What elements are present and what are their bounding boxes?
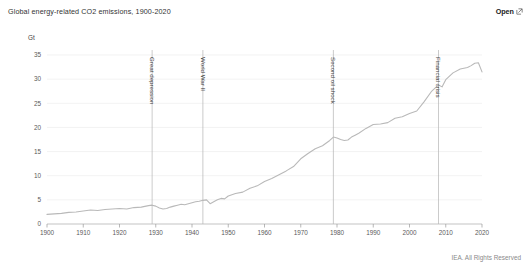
y-axis-ticks: 05101520253035 [34,51,42,227]
co2-emissions-line [47,63,482,215]
x-axis-ticks: 1900191019201930194019501960197019801990… [40,224,490,236]
y-tick-label-20: 20 [34,124,42,131]
annotation-lines [152,50,438,224]
chart-plot-area: Gt 05101520253035 1900191019201930194019… [0,24,531,244]
annotation-label-0: Great depression [149,57,156,105]
x-tick-label-1980: 1980 [330,229,345,236]
open-button-label: Open [496,7,514,16]
page-title: Global energy-related CO2 emissions, 190… [8,7,171,16]
y-tick-label-25: 25 [34,100,42,107]
x-tick-label-1920: 1920 [112,229,127,236]
x-tick-label-2020: 2020 [475,229,490,236]
annotation-labels: Great depressionWorld War IISecond oil s… [149,57,442,105]
x-tick-label-1960: 1960 [257,229,272,236]
gridlines [47,55,482,224]
y-tick-label-15: 15 [34,148,42,155]
y-tick-label-35: 35 [34,51,42,58]
open-button[interactable]: Open [496,7,523,16]
x-tick-label-1940: 1940 [185,229,200,236]
line-chart-svg: 05101520253035 1900191019201930194019501… [0,24,531,244]
y-tick-label-5: 5 [37,196,41,203]
x-tick-label-1950: 1950 [221,229,236,236]
copyright-footer: IEA. All Rights Reserved [451,254,521,261]
y-tick-label-10: 10 [34,172,42,179]
x-tick-label-1930: 1930 [149,229,164,236]
data-series-co2-emissions [47,63,482,215]
x-tick-label-1900: 1900 [40,229,55,236]
x-tick-label-1990: 1990 [366,229,381,236]
y-tick-label-30: 30 [34,75,42,82]
x-tick-label-1970: 1970 [294,229,309,236]
annotation-label-2: Second oil shock [330,57,337,105]
external-link-icon [516,8,523,15]
y-tick-label-0: 0 [37,220,41,227]
x-tick-label-2000: 2000 [402,229,417,236]
x-tick-label-2010: 2010 [439,229,454,236]
annotation-label-3: Financial crisis [435,57,442,98]
chart-screenshot: Global energy-related CO2 emissions, 190… [0,0,531,267]
x-tick-label-1910: 1910 [76,229,91,236]
annotation-label-1: World War II [200,57,207,91]
